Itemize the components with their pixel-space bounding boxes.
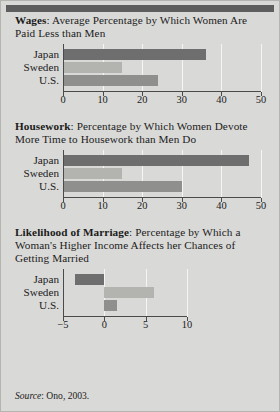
plot-inner-housework: Japan Sweden U.S. bbox=[63, 150, 261, 198]
figure-container: Wages: Average Percentage by Which Women… bbox=[0, 0, 280, 412]
category-label-us: U.S. bbox=[39, 300, 59, 311]
category-label-japan: Japan bbox=[34, 49, 59, 60]
plot-area-wages: Japan Sweden U.S. 0 10 20 30 40 50 bbox=[63, 44, 261, 106]
x-tick-label: 5 bbox=[143, 319, 148, 331]
bar-japan bbox=[63, 49, 206, 60]
category-label-us: U.S. bbox=[39, 75, 59, 86]
x-tick-label: 50 bbox=[256, 94, 266, 106]
gridline bbox=[261, 150, 262, 198]
x-tick-labels-housework: 0 10 20 30 40 50 bbox=[63, 199, 261, 213]
chart-title-housework: Housework: Percentage by Which Women Dev… bbox=[15, 120, 265, 147]
x-tick-labels-wages: 0 10 20 30 40 50 bbox=[63, 93, 261, 107]
category-label-us: U.S. bbox=[39, 181, 59, 192]
bar-japan bbox=[75, 274, 104, 285]
x-tick-label: 30 bbox=[177, 200, 187, 212]
category-label-sweden: Sweden bbox=[24, 168, 59, 179]
y-axis bbox=[63, 44, 64, 92]
source-text: : Ono, 2003. bbox=[41, 390, 89, 401]
chart-title-lead: Housework bbox=[15, 120, 71, 132]
bar-us bbox=[63, 181, 182, 192]
chart-title-wages: Wages: Average Percentage by Which Women… bbox=[15, 14, 265, 41]
chart-panel-marriage: Likelihood of Marriage: Percentage by Wh… bbox=[15, 226, 265, 331]
chart-title-rest: : Average Percentage by Which Women Are … bbox=[15, 14, 247, 39]
x-tick-label: 30 bbox=[177, 94, 187, 106]
bar-us bbox=[63, 75, 158, 86]
x-tick-label: 40 bbox=[216, 200, 226, 212]
x-tick-label: 40 bbox=[216, 94, 226, 106]
category-label-sweden: Sweden bbox=[24, 287, 59, 298]
x-axis bbox=[63, 316, 187, 317]
panels-container: Wages: Average Percentage by Which Women… bbox=[1, 14, 279, 411]
category-label-sweden: Sweden bbox=[24, 62, 59, 73]
bar-sweden bbox=[63, 62, 122, 73]
top-rule-bar bbox=[6, 5, 274, 12]
gridline bbox=[187, 269, 188, 317]
x-tick-label: 20 bbox=[137, 94, 147, 106]
source-lead: Source bbox=[15, 390, 41, 401]
category-label-japan: Japan bbox=[34, 155, 59, 166]
x-tick-label: 0 bbox=[60, 200, 65, 212]
x-tick-label: 0 bbox=[102, 319, 107, 331]
plot-area-housework: Japan Sweden U.S. 0 10 20 30 40 50 bbox=[63, 150, 261, 212]
bar-us bbox=[104, 300, 116, 311]
chart-panel-wages: Wages: Average Percentage by Which Women… bbox=[15, 14, 265, 106]
gridline bbox=[221, 44, 222, 92]
x-tick-label: −5 bbox=[57, 319, 68, 331]
x-tick-label: 50 bbox=[256, 200, 266, 212]
bar-sweden bbox=[104, 287, 154, 298]
bar-japan bbox=[63, 155, 249, 166]
x-tick-label: 10 bbox=[182, 319, 192, 331]
bar-sweden bbox=[63, 168, 122, 179]
category-label-japan: Japan bbox=[34, 274, 59, 285]
x-axis bbox=[63, 91, 261, 92]
y-axis bbox=[63, 150, 64, 198]
plot-inner-wages: Japan Sweden U.S. bbox=[63, 44, 261, 92]
y-axis bbox=[63, 269, 64, 317]
x-axis bbox=[63, 197, 261, 198]
chart-title-marriage: Likelihood of Marriage: Percentage by Wh… bbox=[15, 226, 265, 266]
chart-title-lead: Likelihood of Marriage bbox=[15, 226, 129, 238]
x-tick-label: 20 bbox=[137, 200, 147, 212]
plot-inner-marriage: Japan Sweden U.S. bbox=[63, 269, 187, 317]
chart-panel-housework: Housework: Percentage by Which Women Dev… bbox=[15, 120, 265, 212]
x-tick-label: 10 bbox=[97, 94, 107, 106]
x-tick-label: 0 bbox=[60, 94, 65, 106]
source-note: Source: Ono, 2003. bbox=[15, 390, 89, 402]
chart-title-lead: Wages bbox=[15, 14, 47, 26]
x-tick-label: 10 bbox=[97, 200, 107, 212]
plot-area-marriage: Japan Sweden U.S. −5 0 5 10 bbox=[63, 269, 187, 331]
gridline bbox=[261, 44, 262, 92]
x-tick-labels-marriage: −5 0 5 10 bbox=[63, 318, 187, 332]
